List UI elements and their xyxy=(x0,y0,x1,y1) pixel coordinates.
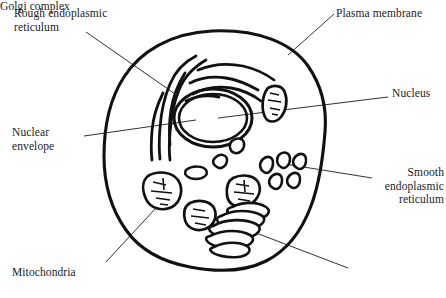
smooth-er-vesicle xyxy=(287,173,300,188)
smooth-er-vesicle xyxy=(230,139,244,154)
rough-endoplasmic-reticulum xyxy=(151,56,274,160)
smooth-er-vesicle xyxy=(213,155,227,168)
mitochondrion xyxy=(143,173,181,210)
smooth-er-vesicle xyxy=(185,167,207,179)
label-mitochondria: Mitochondria xyxy=(12,266,112,280)
smooth-er-vesicle xyxy=(260,157,273,173)
smooth-er-vesicle xyxy=(293,154,306,169)
label-golgi-complex: Golgi complex xyxy=(0,0,70,14)
smooth-er-vesicle xyxy=(277,153,290,168)
label-plasma-membrane: Plasma membrane xyxy=(336,7,444,21)
label-smooth-endoplasmic-reticulum: Smooth endoplasmic reticulum xyxy=(376,166,444,207)
cell-diagram-figure: Rough endoplasmic reticulum Plasma membr… xyxy=(0,0,446,298)
label-nucleus: Nucleus xyxy=(392,87,446,101)
leader-line-plasma-membrane xyxy=(288,14,334,55)
nuclear-envelope-inner xyxy=(179,94,247,142)
label-nuclear-envelope: Nuclear envelope xyxy=(12,126,82,153)
mitochondrion xyxy=(263,86,287,122)
smooth-er-vesicle xyxy=(269,174,282,189)
